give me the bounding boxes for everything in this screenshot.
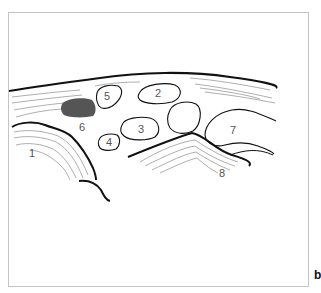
panel-label: b [314, 268, 321, 282]
label-5: 5 [104, 90, 110, 102]
label-3: 3 [138, 123, 144, 135]
upper-boundary-line [9, 73, 277, 91]
label-7: 7 [230, 124, 236, 136]
lower-boundary-thin [230, 150, 273, 155]
fiber-layer-1 [14, 131, 88, 180]
label-4: 4 [106, 136, 112, 148]
unlabeled-structure [168, 102, 201, 133]
label-2: 2 [155, 87, 161, 99]
label-1: 1 [29, 147, 35, 159]
label-8: 8 [219, 167, 225, 179]
label-6: 6 [79, 121, 85, 133]
anatomical-diagram: 1 2 3 4 5 6 7 8 [0, 0, 321, 293]
dark-structure-6 [61, 98, 96, 117]
lower-curve [79, 181, 110, 201]
